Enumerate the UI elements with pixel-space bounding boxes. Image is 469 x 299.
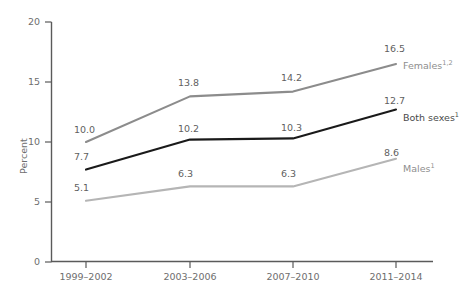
data-label-both-sexes-1999-2002: 7.7 bbox=[74, 152, 89, 162]
y-axis-title-wrap: Percent bbox=[5, 118, 19, 178]
y-axis-title: Percent bbox=[18, 138, 29, 174]
data-label-females-2003-2006: 13.8 bbox=[178, 78, 199, 88]
series-label-females-text: Females bbox=[403, 60, 442, 71]
data-label-females-2007-2010: 14.2 bbox=[281, 73, 302, 83]
y-tick-label-20: 20 bbox=[14, 17, 40, 27]
series-label-females: Females1,2 bbox=[403, 61, 453, 71]
x-tick-label-2: 2003–2006 bbox=[145, 272, 235, 282]
series-label-males-superscript: 1 bbox=[430, 162, 434, 170]
y-tick-label-0: 0 bbox=[14, 257, 40, 267]
data-label-both-sexes-2007-2010: 10.3 bbox=[281, 123, 302, 133]
series-label-both-sexes-superscript: 1 bbox=[455, 111, 459, 119]
data-label-both-sexes-2011-2014: 12.7 bbox=[384, 96, 405, 106]
x-tick-label-3: 2007–2010 bbox=[248, 272, 338, 282]
series-label-both-sexes-text: Both sexes bbox=[403, 112, 455, 123]
y-axis-ticks bbox=[45, 22, 52, 262]
data-label-males-2011-2014: 8.6 bbox=[384, 148, 399, 158]
x-tick-label-4: 2011–2014 bbox=[351, 272, 441, 282]
series-label-males-text: Males bbox=[403, 163, 430, 174]
data-label-males-1999-2002: 5.1 bbox=[74, 183, 89, 193]
series-label-males: Males1 bbox=[403, 164, 435, 174]
data-label-females-1999-2002: 10.0 bbox=[74, 125, 95, 135]
series-line-males bbox=[86, 159, 396, 201]
data-label-females-2011-2014: 16.5 bbox=[384, 44, 405, 54]
data-label-males-2007-2010: 6.3 bbox=[281, 169, 296, 179]
y-tick-label-5: 5 bbox=[14, 197, 40, 207]
series-label-females-superscript: 1,2 bbox=[442, 59, 452, 67]
data-label-males-2003-2006: 6.3 bbox=[178, 169, 193, 179]
y-tick-label-15: 15 bbox=[14, 77, 40, 87]
x-tick-label-1: 1999–2002 bbox=[41, 272, 131, 282]
line-chart: 20 15 10 5 0 Percent 1999–2002 2003–2006… bbox=[0, 0, 469, 299]
x-axis-ticks bbox=[86, 262, 396, 268]
series-line-both-sexes bbox=[86, 110, 396, 170]
series-line-females bbox=[86, 64, 396, 142]
series-label-both-sexes: Both sexes1 bbox=[403, 113, 459, 123]
data-label-both-sexes-2003-2006: 10.2 bbox=[178, 124, 199, 134]
